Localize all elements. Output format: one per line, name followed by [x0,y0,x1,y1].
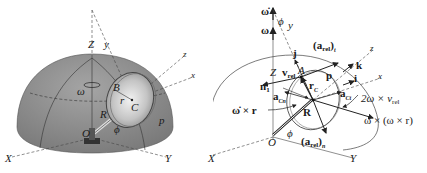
label-X-axis: X [5,153,12,164]
hemisphere-outline [213,55,378,150]
label-coriolis: 2ω × vrel [361,93,399,106]
label-r: r [120,95,124,106]
label-a-rel-t: (arel)t [313,40,336,53]
label-z-axis: z [370,44,374,53]
label-r-C: rC [309,80,318,93]
label-omega-dot: ω̇ [261,6,269,17]
label-phi-top: ϕ [278,16,284,27]
label-p: p [159,115,165,126]
label-phi-bottom: ϕ [287,128,293,139]
label-B: B [113,82,120,93]
label-y-axis: y [104,39,109,50]
label-Y-axis: Y [165,153,171,164]
label-a-Ct: aCt [340,88,351,101]
right-figure-acceleration-diagram: ω̇ ϕ y ω j (arel)t z k Z vrel A p i x n1… [213,0,427,173]
label-omega: ω [261,25,269,36]
label-v-rel: vrel [282,67,296,80]
label-j: j [293,48,297,59]
label-a-Cn: aCn [273,91,286,104]
label-omega-dot-cross-r: ω̇ × r [232,105,257,116]
label-X-axis: X [208,153,215,164]
label-x-axis: x [378,72,382,81]
label-k: k [356,60,362,71]
label-y-axis: y [288,20,293,31]
label-C: C [131,102,138,113]
label-O: O [268,137,276,148]
label-z-axis: z [183,50,187,59]
label-R: R [100,109,107,120]
label-A: A [298,65,305,76]
label-n1: n1 [260,81,270,94]
label-i: i [354,73,357,84]
label-omega: ω [77,86,85,97]
left-figure-disk-on-hemisphere: Z y z x ω B r C R O ϕ p X Y [0,0,213,173]
label-phi: ϕ [114,124,120,135]
label-O: O [82,128,90,139]
label-centripetal: ω × (ω × r) [364,115,413,126]
label-x-axis: x [191,71,195,80]
label-Z-axis: Z [270,67,276,78]
label-p: p [326,70,332,81]
label-Y-axis: Y [350,153,356,164]
label-Z-axis: Z [88,39,94,50]
label-R: R [303,107,311,118]
left-figure-drawing [0,0,213,173]
label-a-rel-n: (arel)n [301,136,325,149]
